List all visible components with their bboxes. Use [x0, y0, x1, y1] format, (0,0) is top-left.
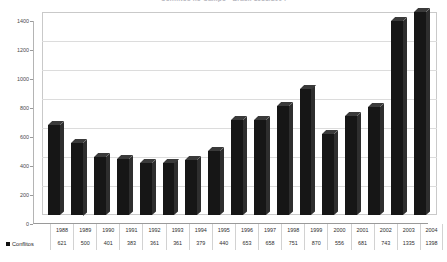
x-axis-year-label: 1995: [213, 225, 235, 236]
x-axis-year-label: 2003: [398, 225, 420, 236]
x-axis-year-label: 1992: [143, 225, 165, 236]
bar-front-face: [140, 163, 152, 215]
bar: [208, 151, 220, 215]
x-axis-year-label: 2000: [328, 225, 350, 236]
data-table-column: 1997658: [258, 224, 281, 250]
y-axis-tick-label: 600: [20, 134, 29, 140]
x-axis-year-label: 1997: [259, 225, 281, 236]
data-value-cell: 621: [51, 238, 73, 249]
x-axis-year-label: 1999: [305, 225, 327, 236]
data-value-cell: 379: [190, 238, 212, 249]
data-value-cell: 658: [259, 238, 281, 249]
data-table-column: 1996653: [235, 224, 258, 250]
data-value-cell: 870: [305, 238, 327, 249]
x-axis-year-label: 1991: [120, 225, 142, 236]
data-value-cell: 743: [375, 238, 397, 249]
x-axis-year-label: 1989: [74, 225, 96, 236]
plot-area: [33, 12, 437, 224]
bar-side-face: [311, 85, 315, 215]
bar-front-face: [322, 134, 334, 215]
bar: [185, 160, 197, 215]
y-axis-tick-label: 200: [20, 192, 29, 198]
bar-side-face: [357, 113, 361, 215]
data-table-column: 1990401: [96, 224, 119, 250]
bar-front-face: [231, 120, 243, 215]
data-table: Conflitos 198862119895001990401199138319…: [0, 224, 447, 262]
bar: [163, 163, 175, 215]
data-table-column: 1993361: [166, 224, 189, 250]
bar-side-face: [266, 116, 270, 215]
data-value-cell: 361: [167, 238, 189, 249]
x-axis-year-label: 1988: [51, 225, 73, 236]
bar: [231, 120, 243, 215]
bar: [300, 89, 312, 215]
data-value-cell: 361: [143, 238, 165, 249]
data-value-cell: 681: [352, 238, 374, 249]
bar-front-face: [300, 89, 312, 215]
bar-front-face: [94, 157, 106, 215]
data-value-cell: 440: [213, 238, 235, 249]
data-table-column: 1991383: [119, 224, 142, 250]
chart-title: Conflitos no Campo - Brasil 1988/2004: [0, 0, 447, 2]
x-axis-year-label: 1996: [236, 225, 258, 236]
bar: [71, 143, 83, 216]
data-table-column: 20041398: [420, 224, 443, 250]
bar-side-face: [174, 159, 178, 215]
data-table-column: 20031335: [397, 224, 420, 250]
data-table-grid: 1988621198950019904011991383199236119933…: [50, 224, 443, 250]
x-axis-year-label: 1993: [167, 225, 189, 236]
legend-conflitos: Conflitos: [6, 238, 50, 249]
data-value-cell: 1335: [398, 238, 420, 249]
bar-front-face: [117, 159, 129, 215]
bar: [345, 116, 357, 215]
bar-front-face: [185, 160, 197, 215]
bar-front-face: [391, 21, 403, 215]
x-axis-year-label: 1990: [97, 225, 119, 236]
bar: [117, 159, 129, 215]
bar-side-face: [426, 9, 430, 215]
data-table-column: 1992361: [142, 224, 165, 250]
x-axis-year-label: 2001: [352, 225, 374, 236]
data-value-cell: 500: [74, 238, 96, 249]
legend-label: Conflitos: [12, 241, 34, 247]
bar: [322, 134, 334, 215]
bar: [48, 125, 60, 215]
bar-front-face: [163, 163, 175, 215]
y-axis: 0200400600800100012001400: [0, 12, 33, 224]
x-axis-year-label: 2002: [375, 225, 397, 236]
data-table-column: 2000556: [327, 224, 350, 250]
bar-side-face: [289, 103, 293, 215]
data-value-cell: 653: [236, 238, 258, 249]
bar-front-face: [345, 116, 357, 215]
bar: [140, 163, 152, 215]
bar-side-face: [220, 148, 224, 215]
data-table-column: 2001681: [351, 224, 374, 250]
square-marker-icon: [6, 242, 10, 246]
bar-side-face: [83, 139, 87, 215]
bar-side-face: [152, 159, 156, 215]
bar-side-face: [243, 117, 247, 215]
bar-front-face: [208, 151, 220, 215]
data-value-cell: 556: [328, 238, 350, 249]
bar-front-face: [277, 106, 289, 215]
y-axis-tick-label: 1400: [17, 18, 29, 24]
bar-series-conflitos: [33, 12, 437, 224]
data-table-column: 1994379: [189, 224, 212, 250]
bar-side-face: [106, 153, 110, 215]
data-value-cell: 751: [282, 238, 304, 249]
bar-side-face: [403, 18, 407, 215]
y-axis-tick-label: 1000: [17, 76, 29, 82]
data-table-column: 1995440: [212, 224, 235, 250]
bar-chart: Conflitos no Campo - Brasil 1988/2004 02…: [0, 0, 447, 262]
bar: [368, 107, 380, 215]
bar: [277, 106, 289, 215]
bar-front-face: [48, 125, 60, 215]
bar-front-face: [368, 107, 380, 215]
bar: [391, 21, 403, 215]
y-axis-tick-label: 800: [20, 105, 29, 111]
x-axis-year-label: 2004: [421, 225, 442, 236]
data-table-column: 1999870: [304, 224, 327, 250]
data-value-cell: 383: [120, 238, 142, 249]
y-axis-tick-label: 400: [20, 163, 29, 169]
bar-side-face: [197, 156, 201, 215]
